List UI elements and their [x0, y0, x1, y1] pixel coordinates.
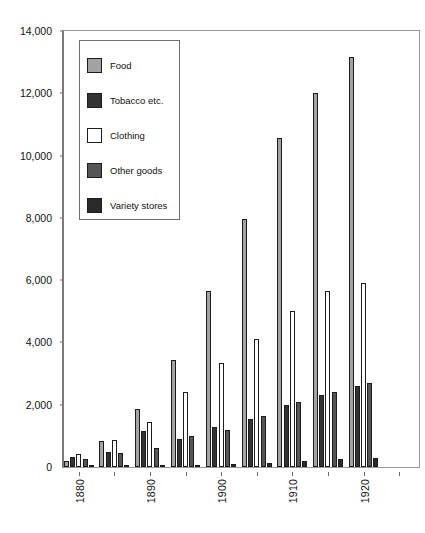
legend-item[interactable]: Tobacco etc. — [87, 85, 179, 115]
legend-swatch-icon — [87, 163, 102, 178]
x-axis-tick-label: 1880 — [74, 479, 86, 503]
legend-item[interactable]: Other goods — [87, 155, 179, 185]
legend-item-label: Clothing — [110, 130, 145, 141]
x-axis-tick-mark — [364, 472, 365, 476]
bar-group — [205, 31, 241, 467]
bar — [171, 360, 176, 467]
bar — [225, 430, 230, 467]
bar — [124, 465, 129, 467]
y-axis-tick-label: 4,000 — [26, 336, 52, 348]
bar — [212, 427, 217, 467]
legend-swatch-icon — [87, 198, 102, 213]
x-axis-tick-mark — [328, 472, 329, 476]
bar — [106, 452, 111, 467]
x-axis-tick-label: 1900 — [216, 479, 228, 503]
bar — [267, 463, 272, 467]
bar — [141, 431, 146, 467]
bar — [302, 461, 307, 467]
bar-group — [277, 31, 313, 467]
x-axis-tick-mark — [399, 472, 400, 476]
bar — [325, 291, 330, 467]
bar — [118, 453, 123, 467]
bar — [231, 464, 236, 467]
legend-swatch-icon — [87, 128, 102, 143]
bar — [195, 465, 200, 467]
bar — [361, 283, 366, 467]
bar — [313, 93, 318, 467]
x-axis-tick-mark — [257, 472, 258, 476]
legend-item[interactable]: Food — [87, 50, 179, 80]
legend-item[interactable]: Variety stores — [87, 190, 179, 220]
bar-group — [241, 31, 277, 467]
x-axis-tick-mark — [79, 472, 80, 476]
bar — [284, 405, 289, 467]
x-axis-tick-mark — [292, 472, 293, 476]
bar — [338, 459, 343, 467]
legend-swatch-icon — [87, 93, 102, 108]
y-axis-tick-label: 12,000 — [20, 87, 52, 99]
x-axis-tick-mark — [221, 472, 222, 476]
bar — [177, 439, 182, 467]
legend-item-label: Tobacco etc. — [110, 95, 163, 106]
y-axis-tick-label: 8,000 — [26, 212, 52, 224]
x-axis-tick-mark — [186, 472, 187, 476]
bar — [248, 419, 253, 467]
bar — [319, 395, 324, 467]
x-axis: 18801890190019101920 — [63, 470, 419, 532]
y-axis: 02,0004,0006,0008,00010,00012,00014,000 — [0, 0, 60, 533]
bar — [189, 436, 194, 467]
bar — [99, 441, 104, 467]
bar-group — [312, 31, 348, 467]
legend: FoodTobacco etc.ClothingOther goodsVarie… — [79, 40, 180, 220]
bar — [76, 454, 81, 467]
bar — [254, 339, 259, 467]
legend-item-label: Other goods — [110, 165, 162, 176]
legend-item-label: Food — [110, 60, 132, 71]
y-axis-tick-label: 6,000 — [26, 274, 52, 286]
bar — [147, 422, 152, 467]
bar — [277, 138, 282, 467]
legend-item-label: Variety stores — [110, 200, 167, 211]
x-axis-tick-label: 1890 — [145, 479, 157, 503]
legend-swatch-icon — [87, 58, 102, 73]
y-axis-tick-label: 14,000 — [20, 25, 52, 37]
bar — [349, 57, 354, 467]
y-axis-tick-label: 2,000 — [26, 399, 52, 411]
x-axis-tick-label: 1920 — [359, 479, 371, 503]
bar — [89, 465, 94, 467]
bar — [296, 402, 301, 467]
bar-chart: 02,0004,0006,0008,00010,00012,00014,000 … — [0, 0, 425, 533]
y-axis-tick-label: 0 — [46, 461, 52, 473]
bar-group — [383, 31, 419, 467]
bar — [135, 409, 140, 467]
bar — [355, 386, 360, 467]
bar — [183, 392, 188, 467]
bar — [70, 457, 75, 467]
bar — [83, 459, 88, 467]
bar — [242, 219, 247, 467]
bar — [332, 392, 337, 467]
bar — [219, 363, 224, 467]
bar — [154, 448, 159, 467]
bar — [64, 461, 69, 467]
bar — [160, 465, 165, 467]
bar — [261, 416, 266, 467]
y-axis-tick-label: 10,000 — [20, 150, 52, 162]
x-axis-tick-mark — [114, 472, 115, 476]
bar — [112, 440, 117, 467]
x-axis-tick-mark — [150, 472, 151, 476]
bar-group — [348, 31, 384, 467]
bar — [373, 458, 378, 467]
bar — [367, 383, 372, 467]
legend-item[interactable]: Clothing — [87, 120, 179, 150]
bar — [206, 291, 211, 467]
bar — [290, 311, 295, 467]
x-axis-tick-label: 1910 — [287, 479, 299, 503]
